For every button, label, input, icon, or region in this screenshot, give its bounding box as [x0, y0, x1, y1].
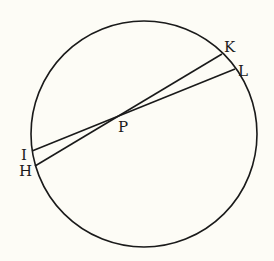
- diagram-canvas: K L I H P: [0, 0, 274, 261]
- label-l: L: [238, 62, 248, 80]
- label-k: K: [224, 38, 236, 56]
- chord-il: [32, 69, 235, 151]
- label-h: H: [19, 162, 32, 180]
- label-p: P: [118, 118, 128, 136]
- chord-hk: [35, 54, 222, 166]
